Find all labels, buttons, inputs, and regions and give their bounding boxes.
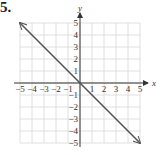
x-tick-label: 5 <box>138 84 143 94</box>
y-tick-label: −3 <box>68 114 78 124</box>
x-axis-label: x <box>151 78 156 88</box>
x-tick-label: 2 <box>102 84 107 94</box>
x-tick-label: −5 <box>15 84 25 94</box>
y-tick-label: 5 <box>74 18 79 28</box>
x-tick-label: 3 <box>114 84 119 94</box>
y-tick-label: 4 <box>74 30 79 40</box>
y-tick-label: −4 <box>68 126 78 136</box>
coordinate-graph: xy−5−4−3−2−11234554321−1−2−3−4−5 <box>0 0 160 155</box>
x-tick-label: −4 <box>27 84 37 94</box>
tick-labels: xy−5−4−3−2−11234554321−1−2−3−4−5 <box>15 3 156 148</box>
y-axis-label: y <box>77 3 82 13</box>
y-tick-label: 1 <box>74 66 79 76</box>
y-tick-label: −2 <box>68 102 78 112</box>
y-tick-label: −5 <box>68 138 78 148</box>
x-tick-label: −2 <box>51 84 61 94</box>
y-tick-label: 3 <box>74 42 79 52</box>
y-tick-label: −1 <box>68 90 78 100</box>
x-tick-label: −3 <box>39 84 49 94</box>
y-tick-label: 2 <box>74 54 79 64</box>
x-tick-label: 4 <box>126 84 131 94</box>
